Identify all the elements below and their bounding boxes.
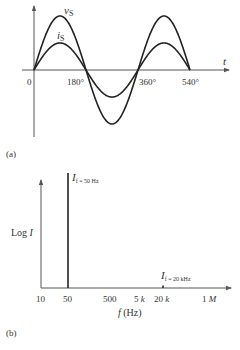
label-i-20khz: If = 20 kHz [160, 269, 191, 282]
figure-b-spectrum: If = 50 Hz If = 20 kHz Log I 10 50 500 5… [6, 171, 231, 338]
b-y-axis-label: Log I [11, 227, 34, 238]
b-tick-10: 10 [36, 294, 46, 304]
is-label: iS [57, 29, 65, 43]
a-tick-540: 540° [182, 77, 200, 87]
figure-a-waveforms: vS iS t 0 180° 360° 540° (a) [6, 4, 229, 159]
a-x-axis-label: t [223, 55, 227, 67]
b-tick-5k: 5 k [134, 294, 146, 304]
a-tick-180: 180° [67, 77, 85, 87]
panel-label-a: (a) [6, 149, 16, 159]
a-tick-360: 360° [139, 77, 157, 87]
b-x-axis-label: f (Hz) [118, 307, 142, 319]
b-tick-1M: 1 M [202, 294, 217, 304]
a-tick-0: 0 [27, 77, 32, 87]
b-tick-50: 50 [63, 294, 73, 304]
figure-canvas: vS iS t 0 180° 360° 540° (a) If = 50 Hz … [0, 0, 240, 350]
b-tick-20k: 20 k [154, 294, 170, 304]
vs-label: vS [64, 4, 73, 18]
label-i-50hz: If = 50 Hz [71, 171, 99, 184]
panel-label-b: (b) [6, 328, 17, 338]
b-tick-500: 500 [103, 294, 117, 304]
